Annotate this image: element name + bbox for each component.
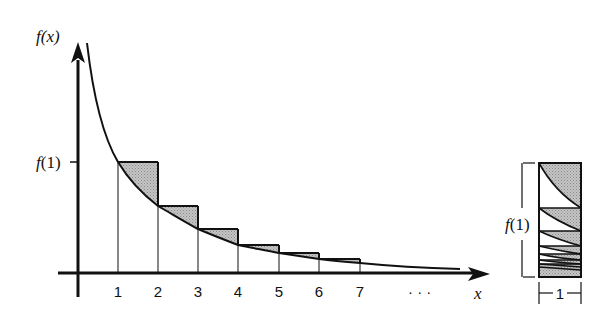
f1-tick-label: f(1) xyxy=(36,153,61,172)
x-tick-1: 1 xyxy=(114,283,122,300)
integral-test-diagram: f(1) f(x) 1 2 3 4 5 6 7 · · · x xyxy=(0,0,610,323)
ellipsis: · · · xyxy=(408,283,431,300)
x-tick-2: 2 xyxy=(154,283,162,300)
x-tick-6: 6 xyxy=(315,283,323,300)
x-tick-4: 4 xyxy=(234,283,242,300)
x-tick-3: 3 xyxy=(194,283,202,300)
y-axis-arrow-icon xyxy=(71,42,85,63)
stack-width-label: 1 xyxy=(556,285,564,302)
y-axis xyxy=(71,42,85,297)
x-tick-7: 7 xyxy=(356,283,364,300)
shaded-gaps xyxy=(118,162,360,263)
x-axis-label: x xyxy=(473,284,482,303)
y-axis-label: f(x) xyxy=(36,27,60,46)
stacked-column xyxy=(539,163,581,277)
x-tick-labels: 1 2 3 4 5 6 7 xyxy=(114,283,364,300)
x-axis xyxy=(58,267,490,281)
x-tick-5: 5 xyxy=(275,283,283,300)
stack-height-label: f(1) xyxy=(505,215,530,234)
curve-fx xyxy=(87,43,460,269)
